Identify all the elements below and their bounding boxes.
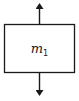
mass-label: m1 (0, 41, 79, 62)
mass-label-symbol: m (31, 41, 43, 56)
mass-label-subscript: 1 (43, 49, 48, 58)
